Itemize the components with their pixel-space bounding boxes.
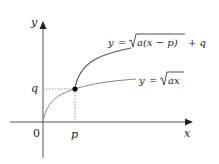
y-axis-label: y [30,16,38,29]
svg-text:a(x − p): a(x − p) [137,37,178,48]
svg-text:y: y [107,37,114,48]
shifted-root-formula: y = a(x − p) + q [107,34,206,48]
p-label: p [71,128,78,141]
base-root-formula: y = ax [138,72,184,86]
origin-label: 0 [33,127,40,140]
base-root-curve [43,79,136,122]
graph-diagram: y x 0 p q y = a(x − p) + q y = ax [0,0,219,164]
svg-text:=: = [118,37,126,48]
x-axis-arrow-icon [185,119,193,126]
svg-text:y: y [138,75,145,86]
vertex-dot [72,86,77,91]
q-label: q [31,82,38,95]
y-axis-arrow-icon [40,21,47,29]
svg-text:+ q: + q [188,37,206,48]
x-axis-label: x [184,127,191,140]
svg-text:=: = [149,75,157,86]
svg-text:ax: ax [168,75,180,86]
